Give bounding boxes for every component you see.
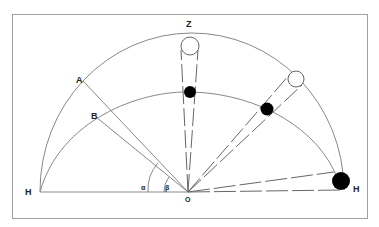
label-alpha: α <box>141 184 146 191</box>
line-oa <box>83 81 188 192</box>
hollow-body-upper-right <box>288 71 304 87</box>
label-horizon-left: H <box>25 187 32 197</box>
hollow-body-zenith <box>181 37 199 55</box>
horizon-ray-lower <box>188 190 340 192</box>
horizon-ray-upper <box>188 172 334 192</box>
label-origin: O <box>185 196 191 203</box>
upper-right-ray-left <box>188 74 290 192</box>
label-horizon-right: H <box>353 184 360 194</box>
label-b: B <box>91 111 98 121</box>
angle-alpha-arc <box>148 163 158 192</box>
outer-arc <box>40 33 344 192</box>
zenith-ray-right <box>188 50 198 192</box>
zenith-ray-left <box>181 50 188 192</box>
filled-body-zenith <box>184 86 196 98</box>
label-zenith: Z <box>186 19 192 29</box>
label-beta: β <box>165 184 170 192</box>
filled-body-right <box>261 103 274 116</box>
filled-body-horizon <box>332 172 350 190</box>
altitude-diagram: Z A B H H O α β <box>0 0 379 227</box>
line-ob <box>96 117 188 192</box>
label-a: A <box>76 75 83 85</box>
